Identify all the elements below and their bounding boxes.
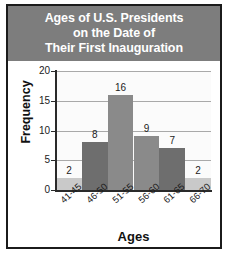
y-axis-tick-mark — [51, 190, 56, 191]
chart-plot-region: 05101520 Frequency 41-4546-5051-5556-606… — [8, 61, 220, 247]
bar-value-label: 9 — [134, 123, 160, 134]
y-axis-title: Frequency — [19, 68, 33, 156]
x-axis-title: Ages — [56, 229, 211, 244]
y-axis-tick-mark — [51, 71, 56, 72]
bar — [108, 95, 134, 190]
y-axis-tick-mark — [51, 131, 56, 132]
bar-value-label: 16 — [108, 82, 134, 93]
chart-title-line-3: Their First Inauguration — [8, 41, 220, 56]
y-axis-tick-label: 0 — [26, 184, 50, 195]
y-axis-tick-mark — [51, 101, 56, 102]
y-axis-tick-mark — [51, 160, 56, 161]
bar-value-label: 2 — [56, 165, 82, 176]
bar-value-label: 7 — [159, 135, 185, 146]
bar-value-label: 2 — [185, 165, 211, 176]
chart-figure: Ages of U.S. Presidents on the Date of T… — [6, 4, 222, 249]
chart-title: Ages of U.S. Presidents on the Date of T… — [8, 6, 220, 61]
bar-value-label: 8 — [82, 129, 108, 140]
chart-title-line-1: Ages of U.S. Presidents — [8, 11, 220, 26]
chart-title-line-2: on the Date of — [8, 26, 220, 41]
